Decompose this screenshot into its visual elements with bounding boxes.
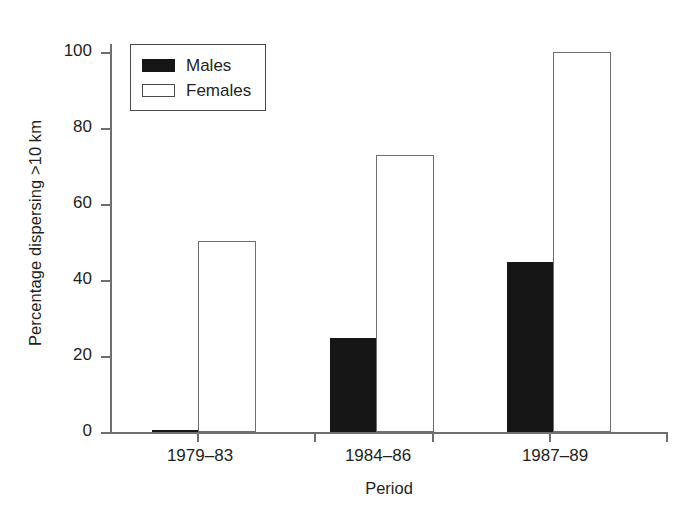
x-category-label-1: 1979–83 [140,446,260,466]
bar-females-1979-83 [198,241,256,432]
x-axis-line [110,432,668,434]
y-axis-label: Percentage dispersing >10 km [18,18,52,448]
y-tick-label-100: 100 [36,41,92,61]
legend-label-females: Females [186,81,251,101]
y-axis-line [110,44,112,433]
x-category-label-3: 1987–89 [495,446,615,466]
bar-males-1979-83 [152,430,198,432]
x-tick-1 [197,433,199,442]
y-tick-60 [101,204,110,206]
legend-swatch-females-icon [142,84,175,97]
x-axis-label: Period [110,479,668,498]
bar-females-1984-86 [376,155,434,432]
chart-legend: Males Females [130,44,266,111]
y-tick-0 [101,432,110,434]
legend-label-males: Males [186,56,231,76]
y-tick-label-80: 80 [36,117,92,137]
y-tick-40 [101,280,110,282]
x-tick-5 [666,433,668,442]
legend-item-females: Females [142,78,265,103]
y-tick-label-40: 40 [36,269,92,289]
y-tick-100 [101,52,110,54]
y-tick-label-20: 20 [36,345,92,365]
bar-chart-figure: Percentage dispersing >10 km 0 20 40 60 … [0,0,688,518]
legend-item-males: Males [142,53,265,78]
y-tick-label-0: 0 [36,421,92,441]
y-tick-20 [101,356,110,358]
bar-males-1984-86 [330,338,376,432]
legend-swatch-males-icon [142,59,175,72]
x-category-label-2: 1984–86 [318,446,438,466]
y-tick-80 [101,128,110,130]
bar-males-1987-89 [507,262,553,432]
y-tick-label-60: 60 [36,193,92,213]
x-tick-4 [549,433,551,442]
x-tick-2 [314,433,316,442]
x-tick-3 [432,433,434,442]
bar-females-1987-89 [553,52,611,432]
